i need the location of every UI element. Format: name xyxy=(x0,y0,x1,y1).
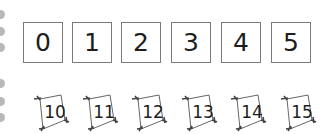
number-label: 2 xyxy=(133,28,149,57)
kite-number: 15 xyxy=(289,102,315,122)
number-label: 1 xyxy=(84,28,100,57)
margin-dot xyxy=(0,113,5,122)
number-label: 3 xyxy=(183,28,199,57)
kite-12: 12 xyxy=(129,93,173,133)
margin-dot xyxy=(0,79,5,88)
kite-number: 12 xyxy=(140,102,166,122)
number-box-2: 2 xyxy=(121,22,161,63)
number-label: 4 xyxy=(233,28,249,57)
kite-number: 11 xyxy=(91,102,117,122)
kite-number: 13 xyxy=(190,102,216,122)
number-label: 5 xyxy=(283,28,299,57)
margin-dot xyxy=(0,43,5,52)
kite-15: 15 xyxy=(278,93,322,133)
kite-14: 14 xyxy=(228,93,272,133)
number-box-5: 5 xyxy=(271,22,311,63)
number-label: 0 xyxy=(35,28,51,57)
number-box-4: 4 xyxy=(221,22,261,63)
kite-number: 14 xyxy=(239,102,265,122)
kite-13: 13 xyxy=(179,93,223,133)
number-box-0: 0 xyxy=(23,22,63,63)
kite-number: 10 xyxy=(42,102,68,122)
number-box-3: 3 xyxy=(171,22,211,63)
margin-dot xyxy=(0,27,5,36)
kite-10: 10 xyxy=(31,93,75,133)
kite-11: 11 xyxy=(80,93,124,133)
margin-dot xyxy=(0,97,5,106)
number-box-1: 1 xyxy=(72,22,112,63)
margin-dot xyxy=(0,10,5,19)
